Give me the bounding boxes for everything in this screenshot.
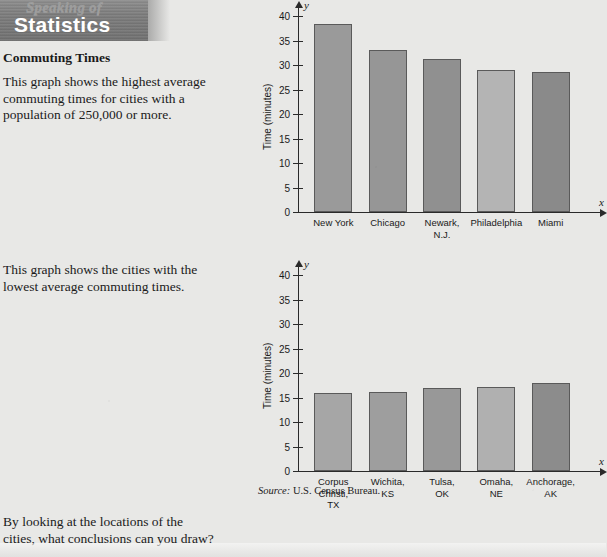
- y-axis-tick: [293, 16, 303, 17]
- x-axis-category-label: Tulsa,OK: [415, 476, 469, 499]
- x-axis-category-label: Newark,N.J.: [415, 217, 469, 240]
- y-axis-tick-label: 35: [266, 294, 290, 305]
- y-axis-tick: [293, 275, 303, 276]
- y-axis-tick: [293, 188, 303, 189]
- x-axis-category-label: Chicago: [361, 217, 415, 229]
- y-axis: [298, 267, 299, 471]
- y-axis-tick: [293, 300, 303, 301]
- x-axis-category-label: Philadelphia: [469, 217, 523, 229]
- y-axis-title: Time (minutes): [262, 84, 273, 150]
- x-axis: [298, 471, 600, 472]
- bar: [423, 59, 461, 212]
- y-axis-tick: [293, 422, 303, 423]
- y-axis-tick-label: 10: [266, 417, 290, 428]
- x-axis-category-label: New York: [306, 217, 360, 229]
- y-axis-tick: [293, 447, 303, 448]
- x-axis-category-label: Omaha,NE: [469, 476, 523, 499]
- bar: [314, 24, 352, 212]
- y-axis-tick-label: 10: [266, 158, 290, 169]
- x-axis-arrow-icon: [600, 468, 607, 476]
- y-axis-arrow-icon: [295, 260, 303, 267]
- bar: [314, 393, 352, 471]
- y-axis-tick-label: 0: [266, 466, 290, 477]
- article-paragraph-1: This graph shows the highest average com…: [3, 74, 218, 124]
- bar: [369, 50, 407, 212]
- y-axis-tick-label: 40: [266, 270, 290, 281]
- bar: [532, 383, 570, 471]
- article-heading: Commuting Times: [3, 50, 110, 66]
- article-paragraph-2: This graph shows the cities with the low…: [3, 262, 218, 295]
- chart-highest-commuting-times: yx0510152025303540Time (minutes)New York…: [258, 6, 603, 248]
- y-axis-tick-label: 5: [266, 182, 290, 193]
- bar: [477, 387, 515, 471]
- y-axis-letter: y: [304, 0, 309, 11]
- chart-lowest-commuting-times: Source: U.S. Census Bureau. yx0510152025…: [258, 265, 603, 515]
- x-axis-letter: x: [599, 196, 604, 208]
- y-axis-tick-label: 40: [266, 11, 290, 22]
- y-axis-tick-label: 5: [266, 441, 290, 452]
- x-axis-category-label: Miami: [524, 217, 578, 229]
- x-axis: [298, 212, 600, 213]
- banner-fade: [148, 0, 170, 41]
- bar: [369, 392, 407, 471]
- bar: [477, 70, 515, 212]
- x-axis-letter: x: [599, 455, 604, 467]
- y-axis-tick-label: 30: [266, 319, 290, 330]
- section-banner: Speaking of Statistics: [0, 0, 148, 41]
- y-axis-tick: [293, 90, 303, 91]
- x-axis-arrow-icon: [600, 209, 607, 217]
- y-axis-arrow-icon: [295, 1, 303, 8]
- y-axis: [298, 8, 299, 212]
- x-axis-category-label: Anchorage,AK: [524, 476, 578, 499]
- y-axis-tick: [293, 139, 303, 140]
- y-axis-letter: y: [304, 258, 309, 270]
- banner-title: Statistics: [14, 13, 110, 37]
- y-axis-tick-label: 30: [266, 60, 290, 71]
- y-axis-tick: [293, 114, 303, 115]
- y-axis-tick: [293, 41, 303, 42]
- y-axis-tick-label: 35: [266, 35, 290, 46]
- x-axis-category-label: Wichita,KS: [361, 476, 415, 499]
- bar: [532, 72, 570, 212]
- y-axis-tick: [293, 324, 303, 325]
- source-label: Source:: [258, 485, 290, 496]
- y-axis-tick: [293, 373, 303, 374]
- y-axis-tick: [293, 471, 303, 472]
- y-axis-tick: [293, 65, 303, 66]
- y-axis-tick: [293, 398, 303, 399]
- y-axis-tick: [293, 349, 303, 350]
- y-axis-tick: [293, 212, 303, 213]
- bar: [423, 388, 461, 471]
- y-axis-tick-label: 0: [266, 207, 290, 218]
- page-bottom-edge: [0, 543, 606, 557]
- y-axis-title: Time (minutes): [262, 343, 273, 409]
- y-axis-tick: [293, 163, 303, 164]
- x-axis-category-label: CorpusChristi,TX: [306, 476, 360, 511]
